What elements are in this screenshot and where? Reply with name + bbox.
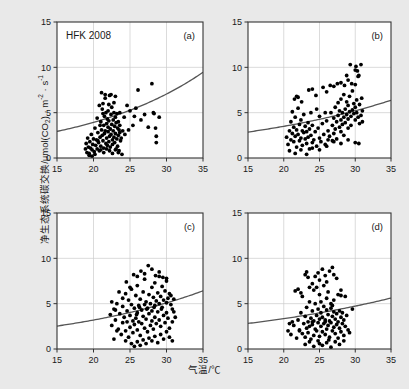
data-point — [169, 303, 173, 307]
data-point — [322, 304, 326, 308]
data-point — [135, 328, 139, 332]
data-point — [348, 63, 352, 67]
data-point — [339, 315, 343, 319]
data-point — [128, 109, 132, 113]
data-point — [125, 309, 129, 313]
data-point — [335, 276, 339, 280]
data-point — [127, 335, 131, 339]
data-point — [309, 111, 313, 115]
data-point — [99, 120, 103, 124]
panel-label-a: (a) — [183, 30, 195, 41]
data-point — [340, 322, 344, 326]
data-point — [300, 143, 304, 147]
data-point — [335, 120, 339, 124]
data-point — [361, 120, 365, 124]
data-point — [325, 90, 329, 94]
data-point — [141, 290, 145, 294]
data-point — [309, 316, 313, 320]
data-point — [330, 123, 334, 127]
data-point — [346, 104, 350, 108]
data-point — [128, 314, 132, 318]
data-point — [330, 314, 334, 318]
data-point — [159, 307, 163, 311]
data-point — [139, 118, 143, 122]
data-point — [165, 311, 169, 315]
data-point — [124, 280, 128, 284]
data-point — [143, 113, 147, 117]
data-point — [124, 339, 128, 343]
data-point — [335, 137, 339, 141]
data-point — [131, 331, 135, 335]
y-tick-label: 15 — [232, 17, 242, 27]
data-point — [124, 329, 128, 333]
data-point — [306, 331, 310, 335]
data-point — [121, 296, 125, 300]
data-point — [295, 94, 299, 98]
x-tick-label: 25 — [125, 164, 135, 174]
data-point — [286, 329, 290, 333]
data-point — [150, 339, 154, 343]
data-point — [166, 296, 170, 300]
data-point — [313, 302, 317, 306]
data-point — [339, 81, 343, 85]
data-point — [117, 290, 121, 294]
data-point — [332, 273, 336, 277]
data-point — [353, 83, 357, 87]
data-point — [157, 115, 161, 119]
data-point — [107, 140, 111, 144]
data-point — [165, 301, 169, 305]
panel-a: 1520253035051015(a)HFK 2008 — [41, 17, 208, 174]
data-point — [116, 120, 120, 124]
data-point — [320, 122, 324, 126]
data-point — [150, 82, 154, 86]
data-point — [307, 88, 311, 92]
data-point — [310, 282, 314, 286]
data-point — [320, 267, 324, 271]
data-point — [299, 311, 303, 315]
data-point — [325, 327, 329, 331]
data-point — [333, 127, 337, 131]
data-point — [327, 338, 331, 342]
data-point — [350, 307, 354, 311]
data-point — [156, 341, 160, 345]
data-point — [298, 329, 302, 333]
y-axis-label-exponent-1: -2 — [37, 94, 44, 100]
data-point — [154, 141, 158, 145]
data-point — [308, 300, 312, 304]
data-point — [146, 125, 150, 129]
data-point — [310, 320, 314, 324]
data-point — [135, 340, 139, 344]
data-point — [144, 300, 148, 304]
data-point — [103, 96, 107, 100]
data-point — [132, 323, 136, 327]
data-point — [96, 139, 100, 143]
data-point — [143, 272, 147, 276]
data-point — [163, 289, 167, 293]
panel-d: 1520253035051015(d) — [232, 208, 396, 365]
data-point — [110, 105, 114, 109]
data-point — [101, 112, 105, 116]
data-point — [305, 305, 309, 309]
data-point — [333, 105, 337, 109]
data-point — [323, 320, 327, 324]
data-point — [330, 329, 334, 333]
data-point — [118, 123, 122, 127]
data-point — [318, 278, 322, 282]
data-point — [134, 316, 138, 320]
data-point — [340, 111, 344, 115]
data-point — [132, 114, 136, 118]
data-point — [166, 316, 170, 320]
data-point — [124, 292, 128, 296]
data-point — [312, 138, 316, 142]
data-point — [128, 285, 132, 289]
data-point — [290, 132, 294, 136]
y-tick-label: 10 — [232, 254, 242, 264]
data-point — [94, 143, 98, 147]
y-tick-label: 15 — [41, 17, 51, 27]
data-point — [139, 269, 143, 273]
data-point — [100, 107, 104, 111]
data-point — [132, 306, 136, 310]
x-tick-label: 30 — [350, 164, 360, 174]
data-point — [325, 308, 329, 312]
data-point — [314, 94, 318, 98]
